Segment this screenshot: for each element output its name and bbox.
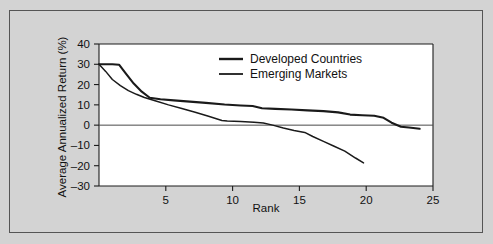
y-axis-tick-marks <box>94 44 99 186</box>
x-tick-label: 5 <box>163 194 169 206</box>
x-axis-title: Rank <box>253 202 280 214</box>
figure-container: –30–20–10010203040 510152025 Average Ann… <box>0 0 493 244</box>
x-tick-label: 10 <box>226 194 239 206</box>
y-axis-title: Average Annualized Return (%) <box>56 36 68 197</box>
y-tick-label: 10 <box>77 99 90 111</box>
legend-label-emerging: Emerging Markets <box>250 67 347 81</box>
x-tick-label: 15 <box>293 194 306 206</box>
x-axis-tick-marks <box>166 186 433 191</box>
y-tick-label: 40 <box>77 38 90 50</box>
legend-label-developed: Developed Countries <box>250 52 362 66</box>
y-tick-label: 20 <box>77 79 90 91</box>
chart-canvas: –30–20–10010203040 510152025 Average Ann… <box>0 0 493 244</box>
y-tick-label: 0 <box>84 119 90 131</box>
x-tick-label: 25 <box>427 194 440 206</box>
y-axis-tick-labels: –30–20–10010203040 <box>71 38 90 192</box>
y-tick-label: –30 <box>71 180 90 192</box>
x-tick-label: 20 <box>360 194 373 206</box>
y-tick-label: 30 <box>77 58 90 70</box>
x-axis-tick-labels: 510152025 <box>163 194 440 206</box>
y-tick-label: –10 <box>71 139 90 151</box>
y-tick-label: –20 <box>71 160 90 172</box>
